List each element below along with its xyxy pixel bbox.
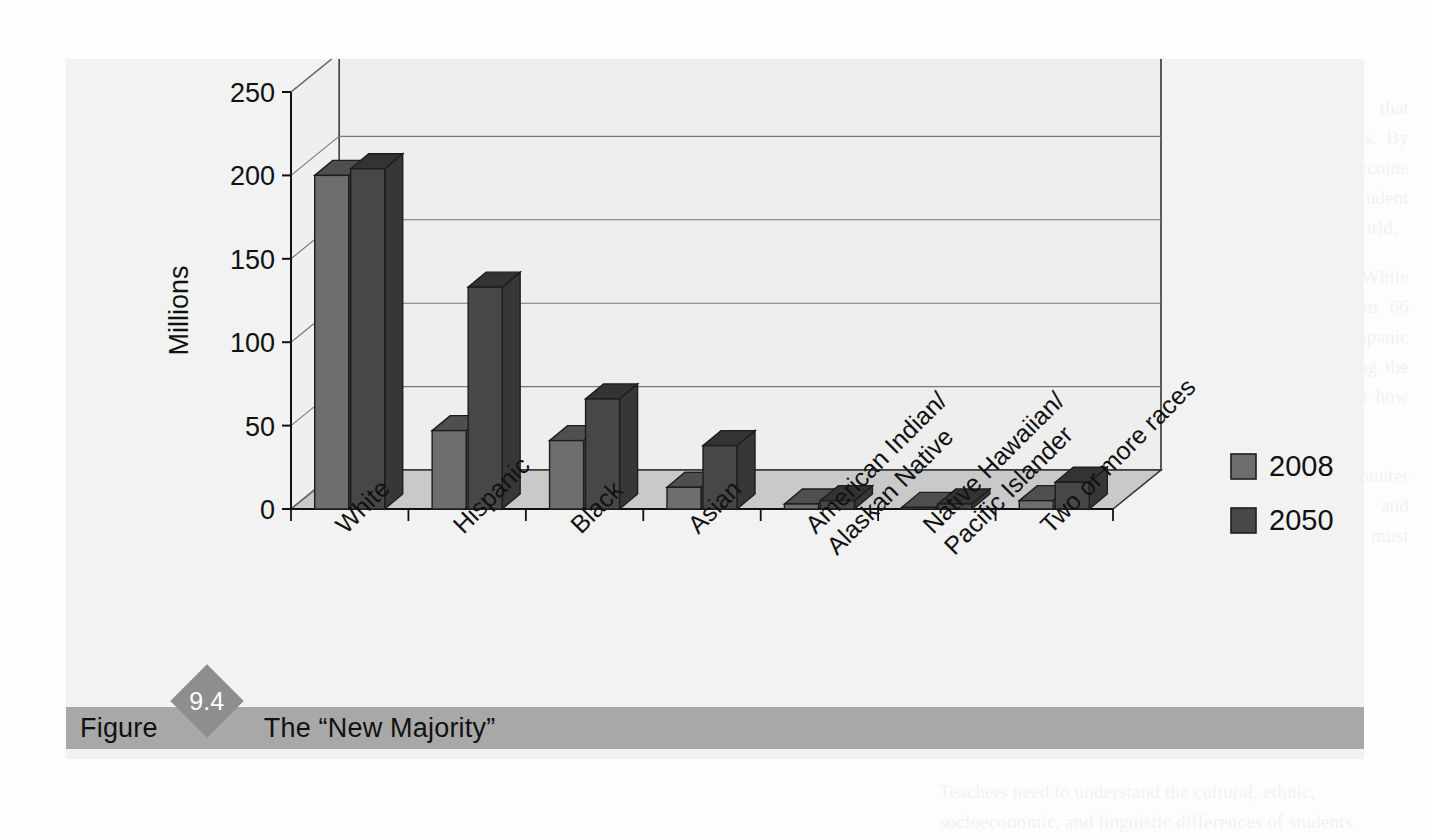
y-axis-tick-label: 150 xyxy=(230,245,275,275)
y-axis-tick-label: 0 xyxy=(260,495,275,525)
y-axis-tick-label: 50 xyxy=(245,412,275,442)
legend-label: 2008 xyxy=(1269,450,1334,482)
bar-chart-3d: 050100150200250MillionsWhiteHispanicBlac… xyxy=(66,59,1364,699)
legend-swatch xyxy=(1231,454,1256,479)
bar-1 xyxy=(351,154,403,509)
figure-number: 9.4 xyxy=(174,675,240,727)
figure-caption-bar: Figure 9.4 The “New Majority” xyxy=(66,707,1364,749)
figure-number-badge: 9.4 xyxy=(174,691,248,765)
caption-figure-label: Figure xyxy=(80,713,158,744)
legend-swatch xyxy=(1231,508,1256,533)
y-axis-tick-label: 200 xyxy=(230,161,275,191)
y-axis-tick-label: 100 xyxy=(230,328,275,358)
figure-title: The “New Majority” xyxy=(264,713,496,744)
chart-plot-area: 050100150200250MillionsWhiteHispanicBlac… xyxy=(66,59,1364,699)
ghost-list-item: Teachers need to understand the cultural… xyxy=(939,777,1409,837)
legend-label: 2050 xyxy=(1269,504,1334,536)
y-axis-tick-label: 250 xyxy=(230,78,275,108)
y-axis-title: Millions xyxy=(164,265,194,355)
figure-panel: 050100150200250MillionsWhiteHispanicBlac… xyxy=(66,59,1364,759)
